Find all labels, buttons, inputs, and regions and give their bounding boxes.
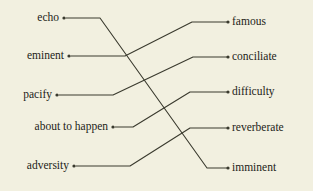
connector-line[interactable] [76, 128, 228, 166]
left-endpoint-dot[interactable] [62, 16, 65, 19]
right-endpoint-dot[interactable] [226, 126, 229, 129]
definition-label-imminent[interactable]: imminent [232, 162, 276, 174]
definition-label-difficulty[interactable]: difficulty [232, 86, 275, 98]
term-label-eminent[interactable]: eminent [27, 50, 64, 62]
term-label-about-to-happen[interactable]: about to happen [35, 121, 108, 133]
left-endpoint-dot[interactable] [67, 54, 70, 57]
connector-line[interactable] [115, 92, 228, 127]
term-label-adversity[interactable]: adversity [27, 160, 69, 172]
right-endpoint-dot[interactable] [226, 90, 229, 93]
definition-label-reverberate[interactable]: reverberate [232, 122, 284, 134]
connector-line[interactable] [71, 22, 228, 56]
connector-line[interactable] [66, 18, 228, 168]
definition-label-famous[interactable]: famous [232, 16, 266, 28]
connector-line[interactable] [59, 57, 228, 95]
right-endpoint-dot[interactable] [226, 20, 229, 23]
right-endpoint-dots [226, 20, 229, 169]
left-endpoint-dot[interactable] [111, 125, 114, 128]
term-label-pacify[interactable]: pacify [23, 89, 52, 101]
left-endpoint-dot[interactable] [72, 164, 75, 167]
matching-exercise-worksheet: echoeminentpacifyabout to happenadversit… [0, 0, 313, 191]
term-label-echo[interactable]: echo [37, 12, 59, 24]
right-endpoint-dot[interactable] [226, 166, 229, 169]
right-endpoint-dot[interactable] [226, 55, 229, 58]
left-endpoint-dot[interactable] [55, 93, 58, 96]
connector-lines [59, 18, 228, 168]
left-endpoint-dots [55, 16, 114, 167]
definition-label-conciliate[interactable]: conciliate [232, 51, 277, 63]
